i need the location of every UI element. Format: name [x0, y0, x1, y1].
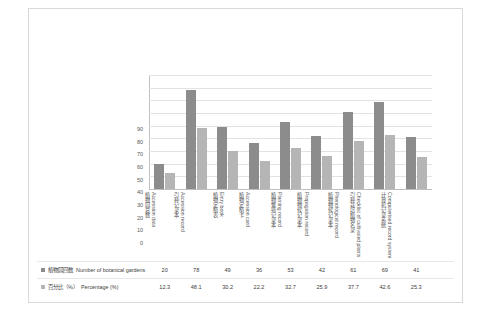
legend-label-en: Number of botanical gardens [76, 267, 145, 273]
category-label-cjk: 植物园总数 [144, 192, 150, 217]
bar-group [369, 75, 400, 189]
bar-group [401, 75, 432, 189]
bar-series-1 [280, 122, 290, 189]
bar-group [338, 75, 369, 189]
bar-series-1 [406, 137, 416, 189]
table-cell: 12.3 [148, 284, 182, 290]
legend-entry-series-2: 百分比（％） Percentage (%) [41, 283, 118, 291]
bar-series-1 [186, 90, 196, 189]
data-table: 植物园回数 Number of botanical gardens 207849… [29, 261, 462, 295]
category-label-en: Accession data [151, 192, 157, 227]
bar-group [180, 75, 211, 189]
bar-group [243, 75, 274, 189]
bar-series-2 [197, 128, 207, 189]
bar-series-1 [249, 143, 259, 189]
table-cell: 41 [399, 267, 433, 273]
category-label-cjk: 植物物候记录本 [327, 192, 333, 227]
table-row: 百分比（％） Percentage (%) 12.348.130.222.232… [29, 278, 462, 295]
y-axis-tick-label: 80 [137, 139, 143, 145]
table-cell: 37.7 [336, 284, 370, 290]
table-cell: 20 [148, 267, 182, 273]
y-axis-tick-label: 60 [137, 164, 143, 170]
bar-group [212, 75, 243, 189]
table-cell: 53 [274, 267, 308, 273]
bar-series-1 [374, 102, 384, 189]
table-cell: 22.2 [242, 284, 276, 290]
bar-series-2 [417, 157, 427, 189]
y-axis-tick-label: 20 [137, 215, 143, 221]
y-axis-tick-label: 40 [137, 189, 143, 195]
category-label-en: Computerised record system [387, 192, 393, 258]
y-axis-tick-label: 70 [137, 151, 143, 157]
category-label-cjk: 植物繁殖记录本 [270, 192, 276, 227]
bar-series-1 [311, 136, 321, 189]
category-label-en: Phenological record [334, 192, 340, 238]
bar-series-2 [260, 161, 270, 189]
bar-group [306, 75, 337, 189]
legend-swatch-icon [41, 285, 45, 289]
table-cell: 61 [336, 267, 370, 273]
table-cell: 42.6 [368, 284, 402, 290]
table-cell: 48.1 [179, 284, 213, 290]
y-axis-tick-label: 50 [137, 177, 143, 183]
bar-series-1 [343, 112, 353, 189]
category-label-cjk: 植物定植表 [212, 192, 218, 217]
legend-label-cjk: 植物园回数 [48, 266, 73, 274]
bar-group [275, 75, 306, 189]
bar-series-2 [228, 151, 238, 189]
category-label-cjk: 植物物候记录本 [297, 192, 303, 227]
plot-area [149, 75, 432, 190]
bar-series-1 [154, 164, 164, 189]
x-axis-line [149, 189, 432, 190]
table-cell: 42 [305, 267, 339, 273]
table-cell: 78 [179, 267, 213, 273]
legend-entry-series-1: 植物园回数 Number of botanical gardens [41, 266, 145, 274]
legend-label-en: Percentage (%) [81, 284, 118, 290]
table-row-divider [37, 278, 454, 279]
bar-series-2 [291, 148, 301, 189]
table-cell: 36 [242, 267, 276, 273]
y-axis-tick-label: 10 [137, 227, 143, 233]
bar-series-2 [354, 141, 364, 189]
category-label-en: Checklist of cultivated plants [356, 192, 362, 257]
category-label-en: Accession card [245, 192, 251, 227]
y-axis-tick-label: 90 [137, 126, 143, 132]
table-cell: 30.2 [211, 284, 245, 290]
table-row: 植物园回数 Number of botanical gardens 207849… [29, 261, 462, 278]
category-label-en: Accession record [180, 192, 186, 232]
y-axis-tick-label: 30 [137, 202, 143, 208]
bar-series-2 [385, 135, 395, 189]
bar-series-1 [217, 127, 227, 189]
y-axis-tick-label: 0 [140, 240, 143, 246]
category-label-en: Entry book [219, 192, 225, 217]
table-row-divider [37, 261, 454, 262]
legend-swatch-icon [41, 268, 45, 272]
category-label-cjk: 引种栽培植物名录 [349, 192, 355, 232]
legend-label-cjk: 百分比（％） [48, 283, 78, 291]
bar-group [149, 75, 180, 189]
category-label-en: Planting record [277, 192, 283, 227]
table-cell: 69 [368, 267, 402, 273]
y-axis: 0102030405060708090 [121, 69, 147, 196]
chart-frame: 0102030405060708090 植物园总数Accession data引… [28, 8, 463, 303]
bar-series-2 [322, 156, 332, 189]
category-label-cjk: 植物定植卡 [238, 192, 244, 217]
category-label-en: Propagation record [304, 192, 310, 236]
category-label-cjk: 计算机记录系统 [380, 192, 386, 227]
category-label-cjk: 引种记录本 [173, 192, 179, 217]
table-cell: 49 [211, 267, 245, 273]
table-cell: 32.7 [274, 284, 308, 290]
table-cell: 25.9 [305, 284, 339, 290]
bar-series-2 [165, 173, 175, 189]
category-label: 计算机记录系统Computerised record system [396, 192, 436, 262]
table-cell: 25.3 [399, 284, 433, 290]
